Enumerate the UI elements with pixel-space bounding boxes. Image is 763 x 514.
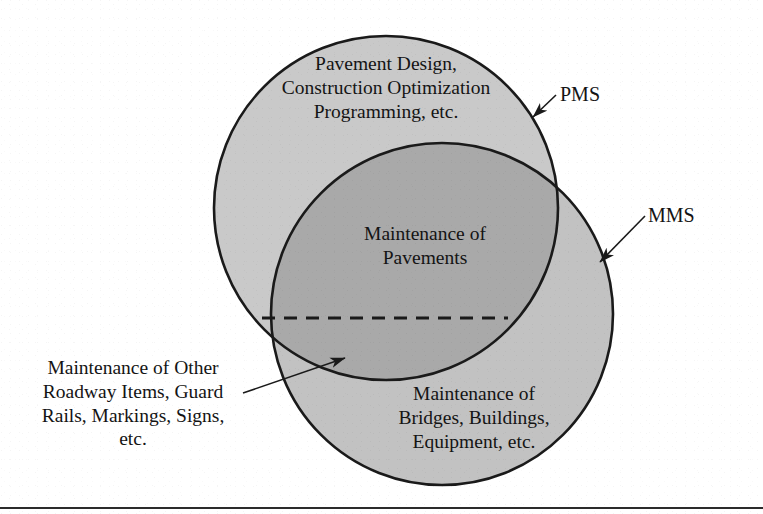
mms-leader-line: [600, 216, 645, 262]
pms-acronym-label: PMS: [560, 82, 670, 106]
pms-region-label: Pavement Design, Construction Optimizati…: [252, 52, 520, 123]
diagram-page: Pavement Design, Construction Optimizati…: [0, 0, 763, 514]
mms-region-label: Maintenance of Bridges, Buildings, Equip…: [368, 382, 580, 453]
pms-leader-line: [533, 95, 556, 117]
other-roadway-callout-label: Maintenance of Other Roadway Items, Guar…: [18, 356, 248, 451]
mms-acronym-label: MMS: [648, 203, 758, 227]
intersection-region-label: Maintenance of Pavements: [318, 222, 532, 270]
bottom-horizontal-rule: [0, 507, 763, 509]
